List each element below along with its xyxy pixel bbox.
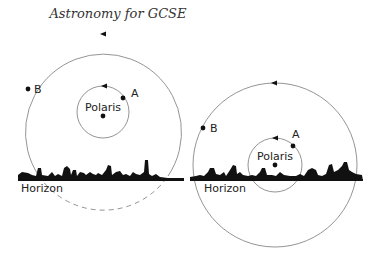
polaris-label: Polaris [257, 150, 293, 163]
star-a-label: A [131, 87, 139, 100]
star-a-label: A [292, 128, 300, 141]
star-a-dot [291, 144, 296, 149]
polaris-dot [101, 114, 106, 119]
direction-arrow-icon [100, 32, 106, 37]
skyline-silhouette [18, 160, 184, 181]
direction-arrow-icon [271, 81, 277, 86]
star-b-dot [201, 126, 206, 131]
polaris-label: Polaris [85, 101, 121, 114]
star-a-dot [121, 96, 126, 101]
horizon-label: Horizon [204, 182, 246, 195]
direction-arrow-icon [101, 84, 107, 89]
right-diagram: Polaris A B Horizon [190, 81, 363, 248]
star-b-label: B [34, 83, 42, 96]
left-diagram: Polaris A B Horizon [18, 32, 184, 211]
direction-arrow-icon [272, 136, 278, 141]
star-b-label: B [210, 122, 218, 135]
page-title: Astronomy for GCSE [48, 6, 187, 21]
star-b-dot [26, 87, 31, 92]
star-trails-diagram: Astronomy for GCSE Polaris A B Horizon P… [0, 0, 380, 259]
polaris-dot [273, 163, 278, 168]
horizon-label: Horizon [21, 182, 63, 195]
